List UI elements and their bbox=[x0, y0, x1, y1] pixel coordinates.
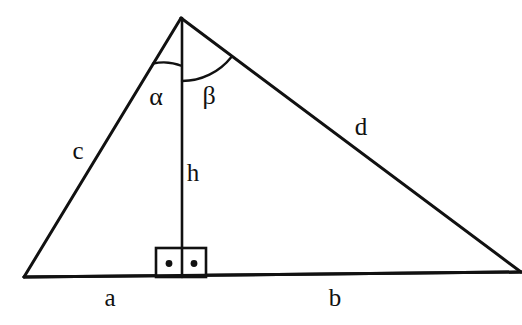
right-angle-dot-right bbox=[191, 260, 198, 267]
base-line-overlay bbox=[24, 272, 521, 277]
label-angle-beta: β bbox=[202, 83, 215, 109]
right-angle-dot-left bbox=[166, 260, 173, 267]
label-altitude-h: h bbox=[187, 160, 200, 185]
label-side-c: c bbox=[72, 138, 83, 163]
label-segment-a: a bbox=[104, 285, 115, 310]
label-side-d: d bbox=[355, 114, 368, 139]
triangle-diagram: c d a b h α β bbox=[0, 0, 522, 325]
angle-alpha-arc bbox=[153, 62, 182, 66]
label-angle-alpha: α bbox=[149, 84, 163, 110]
angle-beta-arc bbox=[182, 57, 231, 81]
side-c-line bbox=[24, 18, 181, 277]
label-segment-b: b bbox=[329, 285, 342, 310]
